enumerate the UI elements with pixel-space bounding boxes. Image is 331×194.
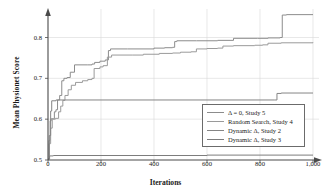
legend-line-swatch bbox=[207, 130, 224, 131]
x-tick-label: 200 bbox=[84, 160, 118, 167]
legend-line-swatch bbox=[207, 139, 224, 140]
x-tick-label: 800 bbox=[243, 160, 277, 167]
x-axis-label: Iterations bbox=[0, 178, 331, 187]
legend-item: Dynamic Δ, Study 3 bbox=[207, 135, 300, 144]
legend-label: Δ = 0, Study 5 bbox=[228, 108, 265, 117]
x-tick-label: 400 bbox=[137, 160, 171, 167]
legend-item: Random Search, Study 4 bbox=[207, 117, 300, 126]
y-axis-label: Mean Physionet Score bbox=[12, 33, 21, 153]
legend-line-swatch bbox=[207, 121, 224, 122]
series-line bbox=[48, 155, 313, 159]
y-tick-label: 0.5 bbox=[20, 156, 42, 163]
legend-item: Dynamic Δ, Study 2 bbox=[207, 126, 300, 135]
y-tick-label: 0.7 bbox=[20, 74, 42, 81]
x-tick-label: 1,000 bbox=[296, 160, 330, 167]
x-tick-label: 600 bbox=[190, 160, 224, 167]
chart-legend: Δ = 0, Study 5 Random Search, Study 4 Dy… bbox=[202, 104, 305, 147]
y-tick-label: 0.6 bbox=[20, 115, 42, 122]
legend-label: Random Search, Study 4 bbox=[228, 117, 293, 126]
y-tick-label: 0.8 bbox=[20, 34, 42, 41]
legend-label: Dynamic Δ, Study 3 bbox=[228, 135, 281, 144]
chart-figure: Mean Physionet Score Iterations 02004006… bbox=[0, 0, 331, 194]
legend-label: Dynamic Δ, Study 2 bbox=[228, 126, 281, 135]
legend-line-swatch bbox=[207, 112, 224, 113]
legend-item: Δ = 0, Study 5 bbox=[207, 108, 300, 117]
